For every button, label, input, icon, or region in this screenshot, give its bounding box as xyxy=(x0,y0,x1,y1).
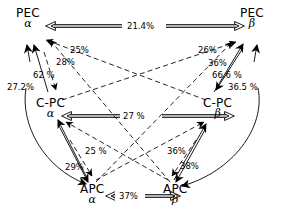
node-pec-alpha-subunit: α xyxy=(16,19,40,29)
node-apc-beta[interactable]: APC β xyxy=(163,184,187,205)
node-pec-alpha[interactable]: PEC α xyxy=(16,8,40,29)
pct-label-cpc-beta-apc-alpha: 36% xyxy=(167,146,186,156)
node-cpc-beta[interactable]: C-PC β xyxy=(203,98,232,119)
node-cpc-alpha-subunit: α xyxy=(36,109,65,119)
node-pec-beta[interactable]: PEC β xyxy=(240,8,264,29)
pct-label-pec-beta-cpc-alpha: 26% xyxy=(198,45,217,55)
edge-cpc-alpha-apc-alpha xyxy=(58,120,88,182)
pct-label-pec-alpha-cpc-beta: 25% xyxy=(70,45,89,55)
pct-label-cpc-beta-apc-beta: 38% xyxy=(180,161,199,171)
edge-apc-alpha-cpc-beta xyxy=(96,122,204,180)
node-cpc-alpha[interactable]: C-PC α xyxy=(36,98,65,119)
pct-label-pec-beta-apc-beta: 36.5 % xyxy=(228,82,258,92)
edge-pec-alpha-cpc-alpha xyxy=(34,45,48,92)
pct-label-pec-alpha-pec-beta: 21.4% xyxy=(127,21,154,31)
pct-label-cpc-alpha-apc-alpha: 29% xyxy=(65,162,84,172)
pct-label-pec-alpha-apc-alpha: 27.2% xyxy=(7,82,34,92)
node-pec-beta-subunit: β xyxy=(240,19,264,29)
node-apc-alpha-subunit: α xyxy=(80,195,104,205)
pct-label-apc-alpha-apc-beta: 37% xyxy=(119,191,138,201)
pct-label-pec-alpha-apc-beta: 28% xyxy=(56,57,75,67)
pct-label-pec-alpha-cpc-alpha: 62 % xyxy=(33,70,55,80)
pct-label-cpc-alpha-apc-beta: 25 % xyxy=(85,146,107,156)
node-cpc-beta-subunit: β xyxy=(203,109,232,119)
pct-label-pec-beta-cpc-beta: 66.6 % xyxy=(212,70,242,80)
node-apc-beta-subunit: β xyxy=(163,195,187,205)
node-apc-alpha[interactable]: APC α xyxy=(80,184,104,205)
pct-label-pec-beta-apc-alpha: 36% xyxy=(208,58,227,68)
pct-label-cpc-alpha-cpc-beta: 27 % xyxy=(123,111,145,121)
homology-diagram: PEC α PEC β C-PC α C-PC β APC α APC β 21… xyxy=(0,0,285,219)
